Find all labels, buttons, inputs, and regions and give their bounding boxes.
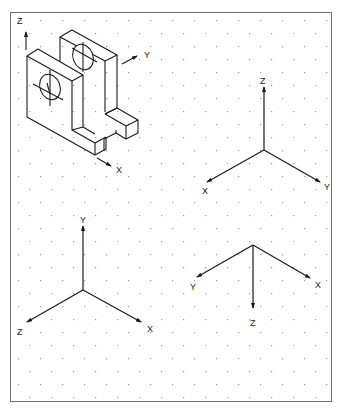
part-y-axis-arrow (122, 56, 137, 64)
part-z-label: Z (17, 16, 23, 26)
y-axis-arrow (264, 150, 320, 182)
x-axis-arrow (207, 150, 264, 182)
part-x-axis-arrow (97, 158, 111, 166)
part-x-label: X (116, 165, 122, 175)
triad3-z-label: Z (250, 318, 256, 328)
z-axis-arrow (27, 290, 83, 322)
triad3-y-label: Y (190, 282, 196, 292)
x-axis-arrow (253, 245, 310, 278)
triad2-y-label: Y (80, 215, 86, 225)
triad2-x-label: X (147, 324, 153, 334)
x-axis-arrow (83, 290, 141, 322)
triad2-z-label: Z (17, 327, 23, 337)
triad1-x-label: X (202, 186, 208, 196)
triad-bottom-right (197, 245, 310, 308)
triad3-x-label: X (315, 280, 321, 290)
part-y-label: Y (144, 50, 150, 60)
triad-top-right (207, 87, 320, 182)
isometric-part (27, 30, 138, 155)
drawing-canvas: Z Y X Z X Y Y Z X Y X Z (0, 0, 343, 414)
triad-bottom-left (27, 226, 141, 322)
y-axis-arrow (197, 245, 253, 277)
triad1-y-label: Y (324, 182, 330, 192)
triad1-z-label: Z (260, 76, 266, 86)
